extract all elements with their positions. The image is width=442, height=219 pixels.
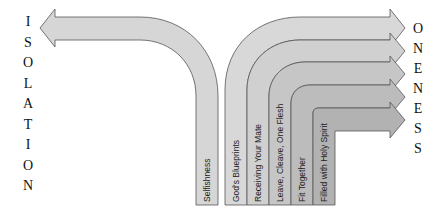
isolation-oneness-diagram: ISOLATION ONENESS Selfishness God's Blue…	[0, 0, 442, 219]
arrows-graphic: Selfishness God's Blueprints Receiving Y…	[0, 0, 442, 219]
selfishness-label: Selfishness	[202, 159, 212, 202]
selfishness-arrow	[40, 9, 218, 205]
receiving-your-mate-label: Receiving Your Mate	[253, 124, 263, 202]
gods-blueprints-label: God's Blueprints	[231, 140, 241, 202]
filled-holy-spirit-label: Filled with Holy Spirit	[319, 122, 329, 202]
fit-together-label: Fit Together	[297, 157, 307, 202]
leave-cleave-label: Leave, Cleave, One Flesh	[275, 103, 285, 202]
fit-together-arrow	[291, 79, 405, 205]
